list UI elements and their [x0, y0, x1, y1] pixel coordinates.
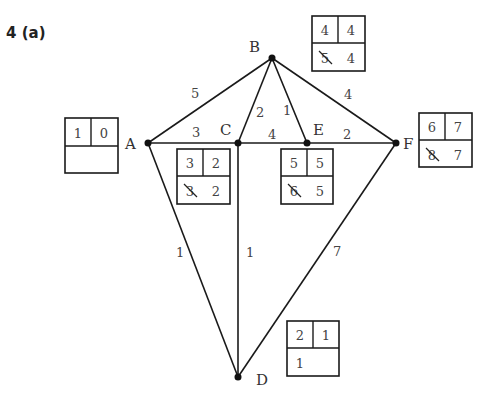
edges [148, 58, 396, 377]
nodes: A B C E F D [124, 38, 413, 389]
node-D [235, 374, 242, 381]
node-label-C: C [220, 121, 231, 139]
box-D-working: 1 [296, 356, 304, 371]
edge-B-C [238, 58, 272, 143]
weight-A-D: 1 [176, 245, 184, 260]
label-box-A: 1 0 [65, 118, 118, 173]
node-label-F: F [403, 135, 413, 153]
node-label-E: E [313, 121, 324, 139]
edge-A-B [148, 58, 272, 143]
box-E-working-current: 5 [316, 184, 324, 199]
box-B-order: 4 [321, 23, 329, 38]
box-B-working-current: 4 [347, 51, 355, 66]
node-C [235, 140, 242, 147]
box-D-final: 1 [322, 328, 330, 343]
box-E-final: 5 [316, 156, 324, 171]
weight-B-F: 4 [344, 87, 352, 102]
weight-F-D: 7 [333, 244, 341, 259]
box-D-order: 2 [296, 328, 304, 343]
weight-A-C: 3 [192, 125, 200, 140]
node-label-D: D [256, 371, 268, 389]
weight-B-E: 1 [283, 103, 291, 118]
box-C-working-current: 2 [212, 184, 220, 199]
box-E-order: 5 [290, 156, 298, 171]
box-A-order: 1 [74, 126, 82, 141]
box-A-final: 0 [100, 126, 108, 141]
weight-B-C: 2 [256, 105, 264, 120]
box-F-final: 7 [454, 120, 462, 135]
label-box-F: 6 7 8 7 [419, 113, 472, 167]
graph-canvas: 5 3 1 2 1 4 4 1 2 7 A B C E F D [0, 0, 493, 397]
dijkstra-network-diagram: 4 (a) 5 3 1 2 1 4 4 1 2 7 [0, 0, 493, 397]
label-box-B: 4 4 5 4 [312, 16, 365, 71]
weight-E-F: 2 [343, 127, 351, 142]
label-box-D: 2 1 1 [287, 321, 339, 376]
node-A [145, 140, 152, 147]
node-F [393, 140, 400, 147]
box-F-working-current: 7 [454, 148, 462, 163]
box-C-final: 2 [212, 156, 220, 171]
node-E [304, 140, 311, 147]
box-F-order: 6 [428, 120, 436, 135]
node-label-B: B [249, 38, 260, 56]
weight-C-E: 4 [268, 127, 276, 142]
label-box-C: 3 2 3 2 [177, 149, 230, 204]
box-C-order: 3 [186, 156, 194, 171]
label-box-E: 5 5 6 5 [281, 149, 333, 204]
box-B-final: 4 [347, 23, 355, 38]
node-B [269, 55, 276, 62]
node-label-A: A [124, 135, 136, 153]
weight-A-B: 5 [191, 86, 199, 101]
weight-C-D: 1 [246, 245, 254, 260]
